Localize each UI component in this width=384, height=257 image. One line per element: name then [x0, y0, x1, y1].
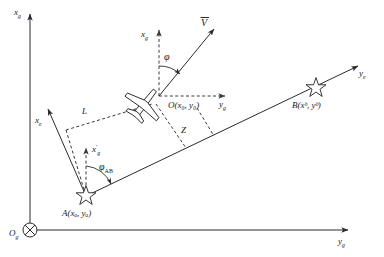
- x-e-axis-label: xe: [34, 115, 42, 127]
- velocity-vector-line: [159, 29, 214, 96]
- waypoint-a-label: A(xₐ, yₐ): [61, 208, 91, 218]
- Z-dashed-line-2: [197, 108, 214, 136]
- waypoint-a-marker: [76, 186, 96, 205]
- x-g-local-label: xg: [140, 29, 148, 41]
- phi-arc: [159, 66, 180, 74]
- origin-label: Og: [9, 228, 19, 240]
- velocity-vector-label: V: [201, 17, 209, 28]
- aircraft-point-label: O(x₀, y₀): [168, 100, 199, 110]
- lateral-offset-label: L: [81, 106, 87, 116]
- aircraft-local-axes: [159, 30, 225, 96]
- cross-track-label: Z: [181, 125, 187, 135]
- velocity-vector-group: [159, 29, 214, 96]
- L-tick-connector: [66, 130, 86, 196]
- phi-ab-angle-label: φAB: [99, 161, 113, 174]
- phi-angle-label: φ: [164, 51, 170, 62]
- y-e-axis-label: ye: [358, 68, 366, 80]
- diagram-canvas: xg yg Og xe ye xg yg x′g: [0, 0, 384, 257]
- x-g-axis-label: xg: [13, 7, 21, 19]
- y-g-local-label: yg: [218, 99, 226, 111]
- aircraft-icon: [118, 78, 170, 129]
- x-g-prime-label: x′g: [91, 144, 100, 156]
- diagram-svg: xg yg Og xe ye xg yg x′g: [0, 0, 384, 257]
- x-e-axis-line: [48, 109, 86, 196]
- phi-angle-group: [159, 66, 180, 74]
- y-g-axis-label: yg: [337, 236, 345, 248]
- waypoint-b-marker: [306, 78, 326, 97]
- waypoint-b-label: B(xᵇ, yᵇ): [292, 100, 321, 110]
